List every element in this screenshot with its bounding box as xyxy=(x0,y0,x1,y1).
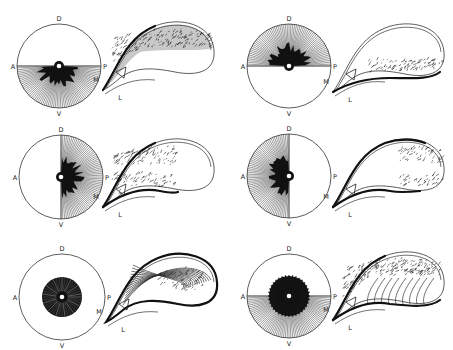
tectal-terminal xyxy=(151,146,152,147)
tectal-terminal xyxy=(416,273,417,274)
tectal-terminal xyxy=(176,282,178,284)
tectal-terminal xyxy=(398,261,401,262)
tectal-terminal xyxy=(428,151,430,152)
tectal-terminal xyxy=(342,296,344,297)
tectal-terminal xyxy=(390,273,393,274)
tectal-terminal xyxy=(133,162,135,164)
retina-diagram: DAPV xyxy=(241,125,337,228)
tectal-terminal xyxy=(424,265,425,268)
tectal-terminal xyxy=(409,178,410,179)
tectal-terminal xyxy=(377,57,379,60)
tectal-terminal xyxy=(380,273,382,274)
tectal-terminal xyxy=(427,271,430,272)
tectal-terminal xyxy=(157,148,158,149)
tectal-terminal xyxy=(435,182,438,183)
tectal-terminal xyxy=(416,180,417,181)
tectal-terminal xyxy=(426,264,427,266)
tectal-terminal xyxy=(381,269,382,271)
tectal-terminal xyxy=(387,67,391,68)
tectal-terminal xyxy=(368,59,370,61)
tectal-terminal xyxy=(407,176,410,177)
tectal-terminal xyxy=(135,151,137,152)
tectal-terminal xyxy=(117,184,119,185)
panel-middle-left: DAPVML xyxy=(13,126,214,229)
tectal-terminal xyxy=(416,153,417,155)
label-dorsal: D xyxy=(56,15,61,23)
tectal-terminal xyxy=(414,66,416,68)
tectal-terminal xyxy=(121,47,122,48)
tectal-terminal xyxy=(407,69,408,71)
panel-middle-right: DAPVML xyxy=(241,125,445,228)
tectal-terminal xyxy=(372,268,374,270)
tectal-terminal xyxy=(156,182,158,183)
tectal-terminal xyxy=(439,62,440,64)
tectal-terminal xyxy=(433,177,435,179)
optic-tract-line xyxy=(105,197,155,211)
tectum: ML xyxy=(96,254,217,334)
tectal-terminal xyxy=(426,179,428,180)
label-anterior: A xyxy=(11,63,16,71)
tectal-terminal xyxy=(432,156,434,158)
tectal-terminal xyxy=(425,147,428,150)
tectal-terminal xyxy=(154,157,156,158)
tectal-terminal xyxy=(419,146,420,148)
tectal-terminal xyxy=(114,178,116,179)
tectal-terminal xyxy=(398,260,399,261)
tectal-terminal xyxy=(413,69,414,70)
label-ventral: V xyxy=(57,110,62,118)
tectum: ML xyxy=(323,252,444,332)
tectal-terminal xyxy=(400,263,404,265)
tectal-terminal xyxy=(426,66,427,67)
tectal-terminal xyxy=(401,269,402,271)
tectal-terminal xyxy=(173,146,174,147)
optic-tract-line xyxy=(335,82,385,96)
label-posterior: P xyxy=(333,63,337,71)
tectal-terminal xyxy=(344,278,345,279)
optic-tract-line xyxy=(335,197,385,211)
tectal-terminal xyxy=(376,68,379,70)
panel-top-left: DAPVML xyxy=(11,15,214,118)
tectal-terminal xyxy=(144,157,145,158)
tectal-terminal xyxy=(396,263,397,265)
label-anterior: A xyxy=(241,173,246,181)
tectal-terminal xyxy=(159,162,160,164)
tectal-terminal xyxy=(432,174,434,177)
tectal-terminal xyxy=(170,151,172,153)
tectal-terminal xyxy=(432,268,433,270)
tectal-terminal xyxy=(170,164,171,165)
tectal-terminal xyxy=(431,270,433,272)
tectal-terminal xyxy=(135,180,136,182)
tectal-terminal xyxy=(401,151,402,152)
tectal-fiber xyxy=(423,278,434,304)
label-lateral: L xyxy=(348,96,352,104)
tectal-terminal xyxy=(437,161,439,163)
tectal-terminal xyxy=(164,282,166,283)
tectal-terminal xyxy=(119,37,121,39)
tectum-thick-outline xyxy=(106,254,217,322)
tectal-terminal xyxy=(117,39,118,40)
tectal-terminal xyxy=(124,177,125,179)
tectal-terminal xyxy=(388,264,390,266)
tectal-terminal xyxy=(431,273,433,274)
tectal-terminal xyxy=(439,269,440,270)
tectal-terminal xyxy=(417,157,419,159)
tectal-terminal xyxy=(123,39,125,42)
label-lateral: L xyxy=(121,326,125,334)
tectal-terminal xyxy=(433,68,434,69)
tectal-terminal xyxy=(126,181,127,182)
tectal-terminal xyxy=(424,271,425,273)
tectal-terminal xyxy=(433,62,434,64)
tectal-terminal xyxy=(163,175,165,178)
tectal-terminal xyxy=(383,60,384,61)
tectal-terminal xyxy=(412,62,413,63)
optic-disc xyxy=(287,174,292,179)
tectal-terminal xyxy=(389,60,391,62)
tectal-terminal xyxy=(426,175,428,176)
tectal-terminal xyxy=(124,181,125,183)
tectal-terminal xyxy=(404,149,407,151)
tectal-terminal xyxy=(407,149,409,151)
tectal-terminal xyxy=(154,181,155,183)
tectal-terminal xyxy=(401,266,402,267)
tectal-terminal xyxy=(167,146,169,147)
tectal-terminal xyxy=(160,282,162,285)
